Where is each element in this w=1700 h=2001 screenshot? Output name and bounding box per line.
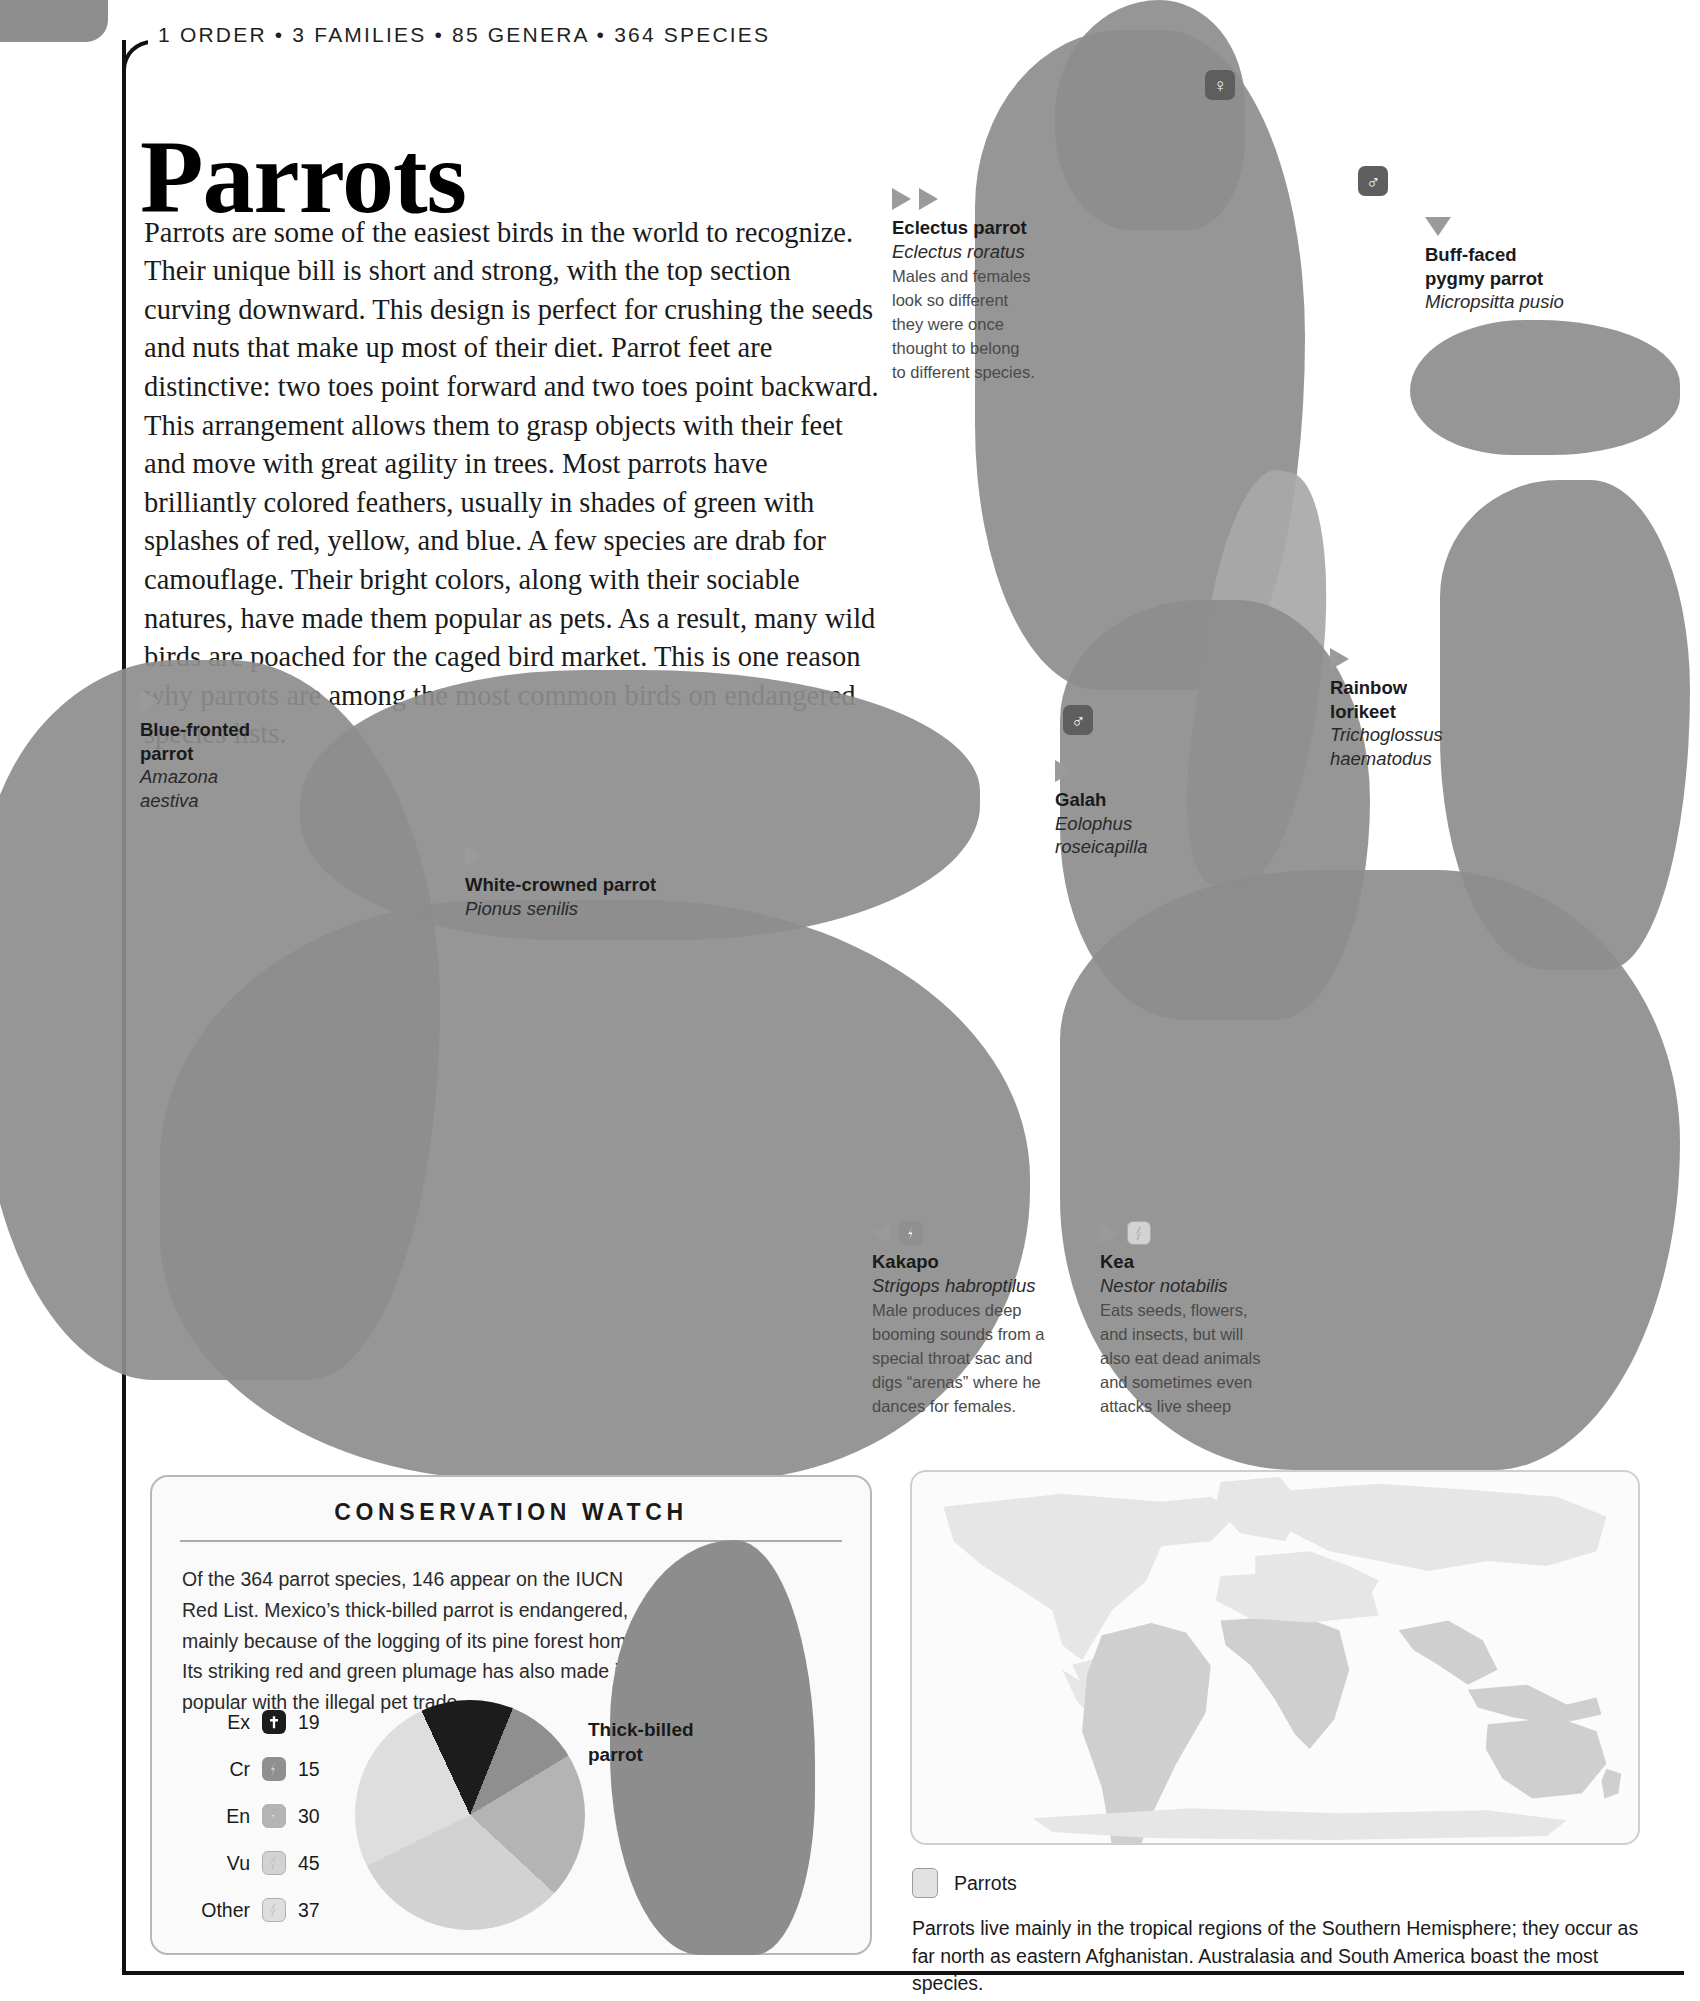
marker-group xyxy=(140,690,340,712)
caption-blue-fronted-parrot: Blue-fronted parrot Amazona aestiva xyxy=(140,690,340,813)
legend-row-other: Other37 xyxy=(188,1898,320,1922)
caption-buff-faced-pygmy-parrot: Buff-faced pygmy parrot Micropsitta pusi… xyxy=(1425,215,1645,314)
caption-scientific-name-line1: Amazona xyxy=(140,765,340,789)
legend-value: 45 xyxy=(298,1852,320,1875)
caption-common-name: Kea xyxy=(1100,1250,1275,1274)
iucn-status-other-icon xyxy=(262,1898,286,1922)
iucn-status-cr-icon xyxy=(899,1221,923,1245)
triangle-right-icon xyxy=(465,845,484,867)
caption-common-name: Kakapo xyxy=(872,1250,1047,1274)
triangle-right-icon xyxy=(1055,760,1074,782)
label-line2: parrot xyxy=(588,1743,694,1768)
triangle-right-icon xyxy=(1330,648,1349,670)
triangle-right-icon xyxy=(892,188,911,210)
triangle-left-icon xyxy=(872,1222,891,1244)
legend-value: 30 xyxy=(298,1805,320,1828)
legend-label: En xyxy=(188,1805,250,1828)
caption-scientific-name-line1: Eolophus xyxy=(1055,812,1235,836)
caption-eclectus-parrot: Eclectus parrot Eclectus roratus Males a… xyxy=(892,188,1037,385)
buff-faced-pygmy-parrot-illustration xyxy=(1410,320,1680,455)
caption-scientific-name-line2: haematodus xyxy=(1330,747,1540,771)
caption-scientific-name: Strigops habroptilus xyxy=(872,1274,1047,1298)
caption-scientific-name: Eclectus roratus xyxy=(892,240,1037,264)
triangle-down-icon xyxy=(1425,217,1451,236)
iucn-status-ex-icon xyxy=(262,1710,286,1734)
legend-value: 37 xyxy=(298,1899,320,1922)
distribution-map-panel xyxy=(910,1470,1640,1845)
thick-billed-parrot-label: Thick-billed parrot xyxy=(588,1718,694,1767)
taxonomy-summary: 1 ORDER • 3 FAMILIES • 85 GENERA • 364 S… xyxy=(148,23,780,47)
label-line1: Thick-billed xyxy=(588,1718,694,1743)
triangle-right-icon xyxy=(140,690,159,712)
caption-scientific-name: Pionus senilis xyxy=(465,897,725,921)
iucn-status-vu-icon xyxy=(262,1851,286,1875)
triangle-right-icon xyxy=(1100,1222,1119,1244)
caption-common-name-line2: parrot xyxy=(140,742,340,766)
caption-common-name-line1: Buff-faced xyxy=(1425,243,1645,267)
legend-row-vu: Vu45 xyxy=(188,1851,320,1875)
male-symbol-badge-galah: ♂ xyxy=(1063,705,1093,735)
caption-rainbow-lorikeet: Rainbow lorikeet Trichoglossus haematodu… xyxy=(1330,648,1540,771)
map-legend: Parrots xyxy=(912,1868,1017,1898)
map-legend-label: Parrots xyxy=(954,1872,1017,1895)
iucn-status-pie-chart xyxy=(355,1700,585,1930)
legend-label: Ex xyxy=(188,1711,250,1734)
marker-group xyxy=(1055,760,1235,782)
map-legend-swatch xyxy=(912,1868,938,1898)
iucn-status-en-icon xyxy=(262,1804,286,1828)
caption-scientific-name-line1: Trichoglossus xyxy=(1330,723,1540,747)
page-corner-tab xyxy=(0,0,108,42)
iucn-status-vu-icon xyxy=(1127,1221,1151,1245)
legend-label: Cr xyxy=(188,1758,250,1781)
caption-common-name: White-crowned parrot xyxy=(465,873,725,897)
caption-common-name-line1: Rainbow xyxy=(1330,676,1540,700)
caption-galah: Galah Eolophus roseicapilla xyxy=(1055,760,1235,859)
caption-common-name: Galah xyxy=(1055,788,1235,812)
marker-group xyxy=(872,1222,1047,1244)
caption-common-name-line1: Blue-fronted xyxy=(140,718,340,742)
caption-white-crowned-parrot: White-crowned parrot Pionus senilis xyxy=(465,845,725,920)
caption-scientific-name-line2: roseicapilla xyxy=(1055,835,1235,859)
marker-group xyxy=(892,188,1037,210)
caption-common-name-line2: pygmy parrot xyxy=(1425,267,1645,291)
conservation-watch-title: CONSERVATION WATCH xyxy=(152,1499,870,1526)
caption-scientific-name: Micropsitta pusio xyxy=(1425,290,1645,314)
marker-group xyxy=(1425,215,1645,237)
caption-note: Males and females look so different they… xyxy=(892,265,1037,385)
marker-group xyxy=(465,845,725,867)
caption-note: Male produces deep booming sounds from a… xyxy=(872,1299,1047,1419)
legend-label: Vu xyxy=(188,1852,250,1875)
female-symbol-badge: ♀ xyxy=(1205,70,1235,100)
legend-label: Other xyxy=(188,1899,250,1922)
legend-row-en: En30 xyxy=(188,1804,320,1828)
caption-scientific-name: Nestor notabilis xyxy=(1100,1274,1275,1298)
caption-kea: Kea Nestor notabilis Eats seeds, flowers… xyxy=(1100,1222,1275,1419)
marker-group xyxy=(1330,648,1540,670)
caption-note: Eats seeds, flowers, and insects, but wi… xyxy=(1100,1299,1275,1419)
map-caption: Parrots live mainly in the tropical regi… xyxy=(912,1915,1652,1998)
world-map-svg xyxy=(912,1472,1638,1843)
marker-group xyxy=(1100,1222,1275,1244)
male-symbol-badge: ♂ xyxy=(1358,166,1388,196)
map-range-shading xyxy=(1082,1615,1621,1843)
conservation-watch-body: Of the 364 parrot species, 146 appear on… xyxy=(182,1564,652,1718)
pie-chart-disc xyxy=(355,1700,585,1930)
legend-row-ex: Ex19 xyxy=(188,1710,320,1734)
caption-common-name: Eclectus parrot xyxy=(892,216,1037,240)
iucn-status-legend: Ex19Cr15En30Vu45Other37 xyxy=(188,1710,320,1922)
legend-value: 19 xyxy=(298,1711,320,1734)
triangle-right-icon xyxy=(919,188,938,210)
iucn-status-cr-icon xyxy=(262,1757,286,1781)
legend-row-cr: Cr15 xyxy=(188,1757,320,1781)
caption-kakapo: Kakapo Strigops habroptilus Male produce… xyxy=(872,1222,1047,1419)
legend-value: 15 xyxy=(298,1758,320,1781)
caption-scientific-name-line2: aestiva xyxy=(140,789,340,813)
caption-common-name-line2: lorikeet xyxy=(1330,700,1540,724)
